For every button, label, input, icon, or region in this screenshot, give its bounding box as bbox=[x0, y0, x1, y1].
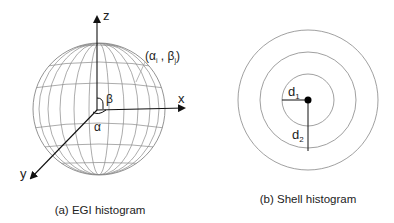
d1-label: d1 bbox=[288, 84, 300, 101]
d2-label: d2 bbox=[292, 127, 304, 144]
y-axis-label: y bbox=[20, 166, 27, 181]
caption-b: (b) Shell histogram bbox=[260, 193, 357, 205]
x-axis-label: x bbox=[178, 91, 185, 106]
beta-label: β bbox=[106, 92, 113, 106]
z-axis-label: z bbox=[103, 8, 110, 23]
alpha-label: α bbox=[94, 120, 101, 134]
sphere-parallels bbox=[33, 45, 165, 165]
caption-a: (a) EGI histogram bbox=[55, 204, 146, 216]
shell-center-point bbox=[305, 97, 312, 104]
beta-arc bbox=[97, 98, 103, 109]
figure-canvas: z x y β α (αi , βj) (a) EGI histogram d1… bbox=[0, 0, 394, 223]
bin-label: (αi , βj) bbox=[145, 49, 180, 65]
x-axis bbox=[97, 108, 184, 110]
